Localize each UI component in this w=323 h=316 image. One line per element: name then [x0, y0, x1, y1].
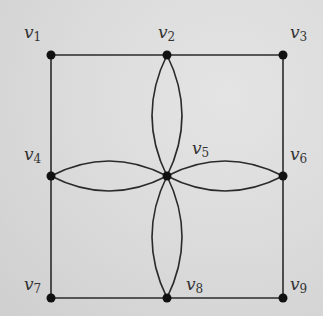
vertex-label-v6: v6: [290, 146, 307, 165]
label-letter: v: [186, 274, 196, 294]
vertex-label-v9: v9: [290, 276, 307, 295]
label-letter: v: [24, 144, 34, 164]
label-letter: v: [290, 274, 300, 294]
vertex-v8: [163, 294, 172, 303]
label-letter: v: [24, 22, 34, 42]
vertex-v3: [279, 51, 288, 60]
vertex-v1: [47, 51, 56, 60]
vertex-label-v5: v5: [192, 140, 209, 159]
vertex-v4: [47, 172, 56, 181]
label-letter: v: [24, 274, 34, 294]
graph-drawing: [0, 0, 323, 316]
vertex-v6: [279, 172, 288, 181]
label-subscript: 8: [196, 282, 204, 296]
vertex-v2: [163, 51, 172, 60]
vertex-label-v7: v7: [24, 276, 41, 295]
label-subscript: 2: [168, 30, 176, 44]
label-subscript: 4: [34, 152, 42, 166]
edge-v2-v5: [167, 55, 182, 176]
label-subscript: 7: [34, 282, 42, 296]
vertex-label-v1: v1: [24, 24, 41, 43]
vertices-group: [47, 51, 288, 303]
vertex-v7: [47, 294, 56, 303]
edge-v5-v8: [152, 176, 167, 298]
edge-v5-v6: [167, 161, 283, 176]
vertex-label-v8: v8: [186, 276, 203, 295]
label-letter: v: [290, 22, 300, 42]
vertex-label-v4: v4: [24, 146, 41, 165]
label-subscript: 6: [300, 152, 308, 166]
label-letter: v: [158, 22, 168, 42]
vertex-v5: [163, 172, 172, 181]
edge-v2-v5: [152, 55, 167, 176]
vertex-label-v3: v3: [290, 24, 307, 43]
graph-diagram: v1v2v3v4v5v6v7v8v9: [0, 0, 323, 316]
label-subscript: 3: [300, 30, 308, 44]
edge-v4-v5: [51, 176, 167, 191]
vertex-label-v2: v2: [158, 24, 175, 43]
edge-v5-v8: [167, 176, 182, 298]
label-subscript: 5: [202, 146, 210, 160]
edge-v5-v6: [167, 176, 283, 191]
label-letter: v: [192, 138, 202, 158]
vertex-v9: [279, 294, 288, 303]
edge-v4-v5: [51, 161, 167, 176]
label-subscript: 9: [300, 282, 308, 296]
label-letter: v: [290, 144, 300, 164]
label-subscript: 1: [34, 30, 42, 44]
